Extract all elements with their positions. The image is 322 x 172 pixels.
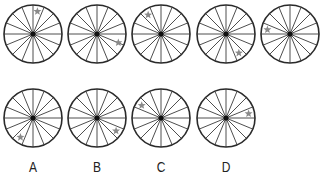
spoke bbox=[12, 34, 33, 55]
option-a-wheel bbox=[4, 89, 62, 147]
star-icon bbox=[144, 11, 152, 19]
spoke bbox=[161, 97, 182, 118]
hub-dot bbox=[223, 31, 228, 36]
spoke bbox=[33, 13, 54, 34]
spoke bbox=[161, 118, 182, 139]
sequence-wheel-5 bbox=[261, 5, 319, 63]
options-row bbox=[4, 89, 255, 147]
spoke bbox=[33, 34, 54, 55]
sequence-wheel-4 bbox=[197, 5, 255, 63]
spoke bbox=[205, 34, 226, 55]
spoke bbox=[161, 34, 182, 55]
spoke bbox=[205, 118, 226, 139]
spoke bbox=[226, 34, 247, 55]
star-icon bbox=[245, 109, 253, 117]
star-icon bbox=[138, 101, 146, 109]
sequence-wheel-2 bbox=[68, 5, 126, 63]
spoke bbox=[97, 118, 118, 139]
hub-dot bbox=[158, 115, 163, 120]
hub-dot bbox=[158, 31, 163, 36]
hub-dot bbox=[30, 115, 35, 120]
spoke bbox=[269, 34, 290, 55]
star-icon bbox=[263, 25, 271, 33]
spoke bbox=[140, 118, 161, 139]
spoke bbox=[290, 34, 311, 55]
spoke bbox=[76, 34, 97, 55]
option-a-label[interactable]: A bbox=[29, 158, 37, 172]
spoke bbox=[269, 13, 290, 34]
spoke bbox=[76, 13, 97, 34]
spoke bbox=[161, 13, 182, 34]
hub-dot bbox=[94, 31, 99, 36]
hub-dot bbox=[30, 31, 35, 36]
spoke bbox=[290, 13, 311, 34]
sequence-row bbox=[4, 5, 319, 63]
spoke bbox=[205, 13, 226, 34]
option-c-label[interactable]: C bbox=[157, 158, 166, 172]
option-d-label[interactable]: D bbox=[222, 158, 231, 172]
hub-dot bbox=[223, 115, 228, 120]
spoke bbox=[76, 97, 97, 118]
spoke bbox=[226, 13, 247, 34]
star-icon bbox=[16, 133, 24, 141]
spoke bbox=[76, 118, 97, 139]
star-icon bbox=[112, 127, 120, 135]
puzzle-canvas bbox=[0, 0, 322, 172]
sequence-wheel-1 bbox=[4, 5, 62, 63]
option-b-label[interactable]: B bbox=[93, 158, 101, 172]
spoke bbox=[226, 118, 247, 139]
spoke bbox=[97, 97, 118, 118]
option-c-wheel bbox=[132, 89, 190, 147]
spoke bbox=[226, 97, 247, 118]
spoke bbox=[33, 118, 54, 139]
option-d-wheel bbox=[197, 89, 255, 147]
sequence-wheel-3 bbox=[132, 5, 190, 63]
spoke bbox=[140, 34, 161, 55]
spoke bbox=[140, 13, 161, 34]
hub-dot bbox=[94, 115, 99, 120]
spoke bbox=[12, 97, 33, 118]
spoke bbox=[33, 97, 54, 118]
hub-dot bbox=[287, 31, 292, 36]
spoke bbox=[205, 97, 226, 118]
spoke bbox=[97, 13, 118, 34]
star-icon bbox=[114, 38, 122, 46]
spoke bbox=[97, 34, 118, 55]
star-icon bbox=[33, 7, 41, 15]
spoke bbox=[12, 118, 33, 139]
option-b-wheel bbox=[68, 89, 126, 147]
spoke bbox=[12, 13, 33, 34]
